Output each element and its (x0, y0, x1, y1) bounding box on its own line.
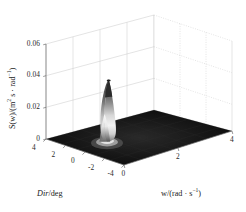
w-axis-slash: /(rad · s (167, 189, 192, 198)
w-tick-2: 2 (176, 153, 180, 160)
z-axis-exponent-minus1: −1 (6, 70, 12, 76)
dir-tick-0: 0 (71, 157, 75, 164)
z-axis-title: S(w)/(m2 s · rad−1) (9, 68, 17, 129)
dir-axis-unit: /deg (48, 189, 62, 198)
w-axis-title: w/(rad · s−1) (161, 190, 201, 198)
w-tick-4: 4 (230, 136, 234, 143)
dir-tick-2: 2 (52, 151, 56, 158)
dir-axis-symbol: Dir (37, 189, 48, 198)
z-axis-slash: /(m (8, 102, 17, 113)
z-axis-mid: s · rad (8, 76, 17, 99)
figure-canvas: 0.06 0.04 0.02 0 S(w)/(m2 s · rad−1) 4 2… (0, 0, 246, 212)
z-tick-0.06: 0.06 (7, 40, 40, 47)
dir-tick-4: 4 (32, 144, 36, 151)
dir-tick-minus4: -4 (108, 170, 114, 177)
w-axis-close-paren: ) (198, 189, 201, 198)
z-tick-0: 0 (7, 135, 40, 142)
z-axis-close-paren: ) (8, 68, 17, 71)
z-axis-exponent-2: 2 (6, 99, 12, 102)
dir-axis-title: Dir/deg (37, 190, 62, 198)
w-tick-0: 0 (122, 170, 126, 177)
z-axis-symbol: S(w) (8, 113, 17, 129)
dir-tick-minus2: -2 (88, 164, 94, 171)
